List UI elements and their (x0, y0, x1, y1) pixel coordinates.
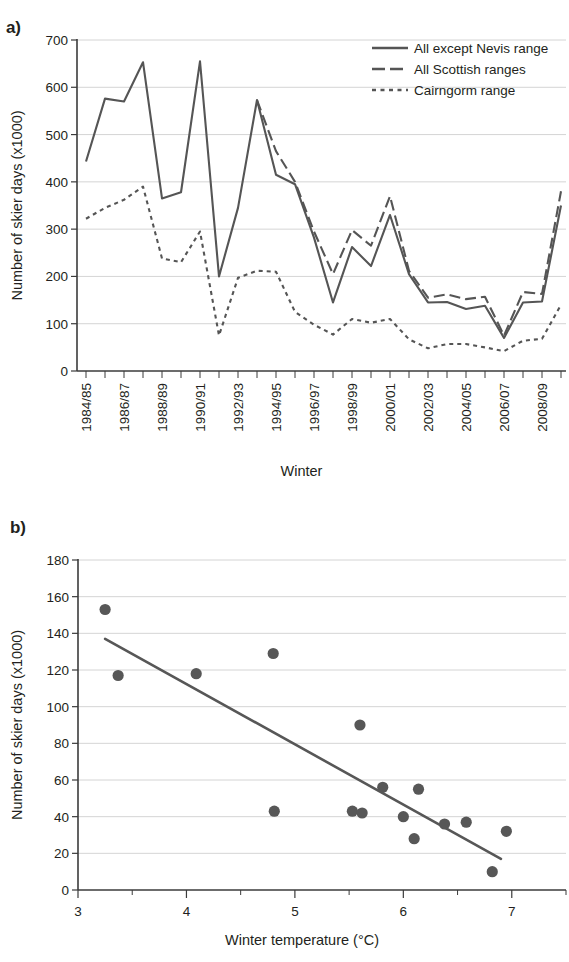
series-solid (86, 61, 561, 338)
y-tick-label-a: 0 (60, 364, 68, 379)
scatter-point (100, 604, 111, 615)
y-tick-label-b: 60 (54, 773, 69, 788)
legend-label: All Scottish ranges (414, 62, 526, 77)
legend-label: All except Nevis range (414, 41, 548, 56)
x-tick-label-a: 1988/89 (155, 383, 170, 432)
x-tick-label-b: 6 (400, 904, 408, 919)
line-chart-panel-a: 0100200300400500600700Number of skier da… (0, 0, 569, 500)
scatter-point (347, 806, 358, 817)
x-tick-label-b: 7 (508, 904, 516, 919)
legend-label: Cairngorm range (414, 83, 515, 98)
x-axis-title-a: Winter (281, 463, 323, 479)
figure-container: a) b) 0100200300400500600700Number of sk… (0, 0, 569, 962)
y-tick-label-b: 140 (46, 626, 69, 641)
scatter-point (113, 670, 124, 681)
y-tick-label-a: 400 (45, 175, 68, 190)
y-tick-label-a: 600 (45, 80, 68, 95)
y-tick-label-b: 180 (46, 553, 69, 568)
x-tick-label-b: 5 (291, 904, 299, 919)
x-tick-label-a: 1990/91 (193, 383, 208, 432)
x-tick-label-a: 1984/85 (79, 383, 94, 432)
y-tick-label-a: 700 (45, 33, 68, 48)
x-tick-label-a: 1998/99 (345, 383, 360, 432)
x-tick-label-a: 2008/09 (535, 383, 550, 432)
scatter-chart-panel-b: 020406080100120140160180Number of skier … (0, 492, 569, 962)
y-tick-label-b: 120 (46, 663, 69, 678)
y-tick-label-a: 500 (45, 128, 68, 143)
x-tick-label-b: 4 (183, 904, 191, 919)
y-axis-title-a: Number of skier days (x1000) (9, 110, 25, 300)
scatter-point (487, 866, 498, 877)
scatter-point (357, 807, 368, 818)
x-tick-label-a: 1992/93 (231, 383, 246, 432)
scatter-point (191, 668, 202, 679)
scatter-point (354, 719, 365, 730)
x-tick-label-a: 2004/05 (459, 383, 474, 432)
scatter-point (439, 818, 450, 829)
y-tick-label-a: 300 (45, 222, 68, 237)
scatter-point (377, 782, 388, 793)
scatter-point (398, 811, 409, 822)
scatter-point (461, 817, 472, 828)
scatter-point (409, 833, 420, 844)
x-tick-label-a: 2000/01 (383, 383, 398, 432)
x-tick-label-a: 2002/03 (421, 383, 436, 432)
x-axis-title-b: Winter temperature (°C) (225, 932, 379, 948)
y-tick-label-b: 160 (46, 590, 69, 605)
y-tick-label-b: 0 (61, 883, 69, 898)
scatter-point (269, 806, 280, 817)
y-tick-label-a: 200 (45, 269, 68, 284)
x-tick-label-a: 1996/97 (307, 383, 322, 432)
y-tick-label-b: 40 (54, 810, 69, 825)
series-dashed (257, 100, 561, 335)
x-tick-label-a: 2006/07 (497, 383, 512, 432)
x-tick-label-b: 3 (74, 904, 82, 919)
x-tick-label-a: 1986/87 (117, 383, 132, 432)
x-tick-label-a: 1994/95 (269, 383, 284, 432)
y-tick-label-b: 100 (46, 700, 69, 715)
y-axis-title-b: Number of skier days (x1000) (9, 630, 25, 820)
scatter-point (501, 826, 512, 837)
scatter-point (413, 784, 424, 795)
y-tick-label-b: 80 (54, 736, 69, 751)
y-tick-label-b: 20 (54, 846, 69, 861)
scatter-point (268, 648, 279, 659)
y-tick-label-a: 100 (45, 317, 68, 332)
